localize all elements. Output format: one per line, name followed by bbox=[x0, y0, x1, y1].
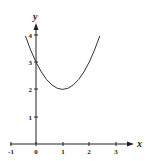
x-tick-label: -1 bbox=[8, 148, 14, 156]
x-axis-title: x bbox=[136, 138, 142, 149]
x-tick-label: 0 bbox=[34, 148, 38, 156]
chart: -1 0 1 2 3 1 2 3 4 x y bbox=[0, 0, 146, 161]
y-tick-label: 2 bbox=[29, 86, 33, 94]
y-axis-arrow-icon bbox=[34, 23, 39, 30]
x-axis-arrow-icon bbox=[127, 142, 134, 147]
x-tick-label: 2 bbox=[87, 148, 91, 156]
x-tick-label: 1 bbox=[61, 148, 65, 156]
y-axis-title: y bbox=[32, 11, 38, 22]
parabola-curve bbox=[25, 36, 99, 90]
x-tick-labels: -1 0 1 2 3 bbox=[8, 148, 118, 156]
y-tick-label: 3 bbox=[29, 59, 33, 67]
y-tick-label: 1 bbox=[29, 114, 33, 122]
y-tick-label: 4 bbox=[29, 32, 33, 40]
x-tick-label: 3 bbox=[114, 148, 118, 156]
